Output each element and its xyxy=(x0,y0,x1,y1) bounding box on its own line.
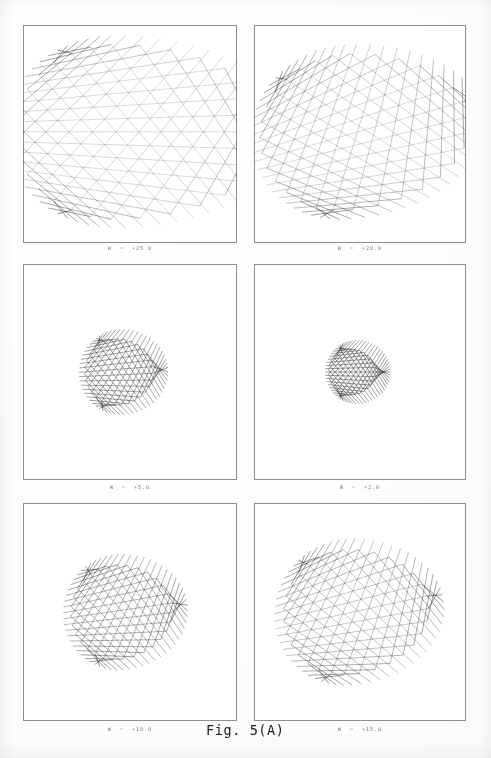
panel-1 xyxy=(254,25,466,243)
ray-segment xyxy=(118,339,157,400)
ray-segment xyxy=(151,360,168,376)
ray-segment xyxy=(83,581,155,661)
ray-segment xyxy=(23,97,237,112)
ray-segment xyxy=(64,613,172,625)
ray-segment xyxy=(23,179,200,207)
ray-segment xyxy=(267,48,325,168)
ray-segment xyxy=(140,45,237,194)
ray-segment xyxy=(99,569,167,653)
ray-segment xyxy=(25,50,171,77)
ray-segment xyxy=(454,71,455,164)
ray-segment xyxy=(399,58,466,135)
panel-5 xyxy=(254,503,466,721)
ray-segment xyxy=(294,199,401,208)
ray-segment xyxy=(275,584,422,621)
ray-family xyxy=(274,539,444,686)
ray-segment xyxy=(23,151,237,166)
ray-segment xyxy=(77,651,145,653)
ray-segment xyxy=(286,79,450,184)
ray-segment xyxy=(299,573,407,668)
panel-3-parameter-label: W = +2.0 xyxy=(254,484,466,490)
ray-segment xyxy=(267,106,430,197)
ray-segment xyxy=(299,555,305,573)
ray-segment xyxy=(39,189,78,222)
ray-segment xyxy=(284,550,343,579)
ray-segment xyxy=(291,539,346,645)
ray-segment xyxy=(331,361,366,403)
ray-segment xyxy=(254,54,375,118)
ray-segment xyxy=(462,77,464,148)
ray-segment xyxy=(291,551,310,584)
ray-segment xyxy=(153,578,176,647)
ray-segment xyxy=(104,559,151,658)
ray-segment xyxy=(359,548,400,673)
ray-segment xyxy=(39,41,78,74)
ray-segment xyxy=(275,46,335,181)
ray-segment xyxy=(25,187,171,214)
caustic-ray-plot xyxy=(254,264,466,480)
ray-segment xyxy=(331,552,426,652)
ray-segment xyxy=(99,345,146,408)
ray-segment xyxy=(308,674,359,676)
ray-segment xyxy=(286,189,422,203)
ray-segment xyxy=(289,552,331,572)
ray-segment xyxy=(113,562,156,659)
ray-segment xyxy=(319,540,374,669)
figure-sheet: W = +25.0W = +20.0W = +5.0W = +2.0W = +1… xyxy=(0,0,491,758)
ray-segment xyxy=(302,670,375,671)
ray-segment xyxy=(402,564,443,617)
ray-segment xyxy=(262,51,316,153)
ray-segment xyxy=(427,581,437,622)
ray-family xyxy=(63,554,188,670)
ray-family xyxy=(325,340,390,404)
ray-segment xyxy=(262,153,393,212)
ray-segment xyxy=(333,55,466,161)
ray-segment xyxy=(172,599,187,612)
ray-segment xyxy=(123,565,162,659)
ray-segment xyxy=(23,58,200,86)
ray-segment xyxy=(331,341,366,383)
ray-segment xyxy=(403,562,422,655)
ray-segment xyxy=(267,65,290,106)
ray-segment xyxy=(291,584,398,673)
ray-segment xyxy=(71,556,107,607)
panel-0 xyxy=(23,25,237,243)
ray-segment xyxy=(390,557,416,663)
ray-segment xyxy=(440,65,444,178)
ray-segment xyxy=(378,51,410,206)
ray-segment xyxy=(39,41,178,188)
ray-segment xyxy=(200,58,237,179)
ray-segment xyxy=(72,554,118,626)
ray-segment xyxy=(277,609,428,636)
ray-segment xyxy=(375,553,408,670)
caustic-ray-plot xyxy=(254,25,466,243)
panel-3 xyxy=(254,264,466,480)
ray-segment xyxy=(283,634,422,650)
ray-segment xyxy=(66,572,148,595)
panel-0-parameter-label: W = +25.0 xyxy=(23,245,237,251)
ray-segment xyxy=(156,578,186,623)
ray-segment xyxy=(267,168,379,215)
ray-segment xyxy=(161,583,180,640)
ray-segment xyxy=(23,141,111,228)
caustic-ray-plot xyxy=(23,503,237,721)
ray-segment xyxy=(258,117,466,170)
ray-segment xyxy=(88,387,116,414)
panel-5-parameter-label: W = +15.0 xyxy=(254,726,466,732)
ray-segment xyxy=(358,550,436,639)
ray-segment xyxy=(328,340,356,370)
caustic-ray-plot xyxy=(23,25,237,243)
ray-segment xyxy=(200,85,237,206)
ray-segment xyxy=(39,75,178,222)
ray-segment xyxy=(96,398,107,413)
ray-segment xyxy=(111,62,237,219)
ray-segment xyxy=(140,69,237,218)
figure-caption: Fig. 5(A) xyxy=(206,722,285,738)
ray-family xyxy=(254,44,466,219)
ray-segment xyxy=(171,77,237,214)
ray-family xyxy=(23,36,237,228)
ray-segment xyxy=(23,36,111,123)
ray-segment xyxy=(71,555,113,617)
ray-segment xyxy=(262,122,418,203)
ray-segment xyxy=(92,403,121,405)
